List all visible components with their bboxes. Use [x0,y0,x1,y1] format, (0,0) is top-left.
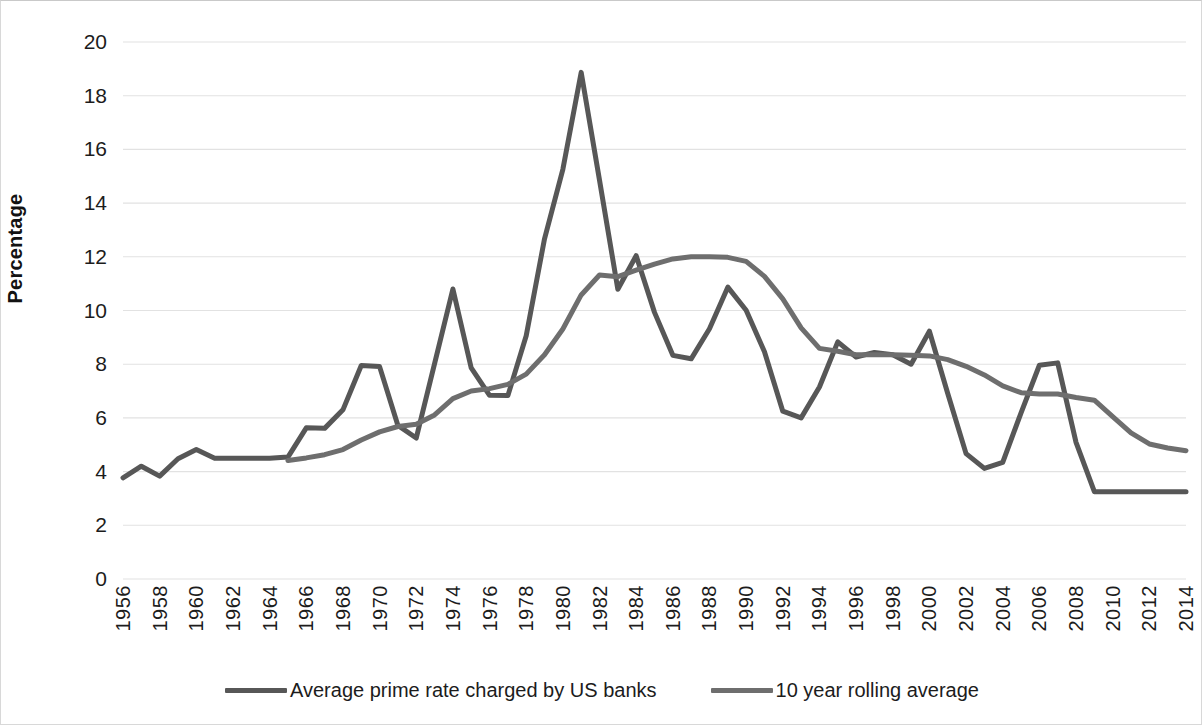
legend-item-label: Average prime rate charged by US banks [290,679,657,702]
y-axis-tick-label: 20 [61,30,107,54]
y-axis-tick-label: 2 [61,513,107,537]
y-axis-title: Percentage [4,169,27,329]
y-axis-tick-label: 12 [61,245,107,269]
x-axis-tick-label: 1990 [735,585,758,632]
x-axis-tick-label: 1994 [808,585,831,632]
y-axis-tick-label: 4 [61,460,107,484]
y-axis-tick-label: 8 [61,352,107,376]
y-axis-tick-labels: 02468101214161820 [61,42,107,579]
y-axis-tick-label: 18 [61,84,107,108]
series-line-prime-rate [123,72,1186,491]
x-axis-tick-label: 1968 [332,585,355,632]
x-axis-tick-label: 2006 [1028,585,1051,632]
x-axis-tick-label: 2012 [1138,585,1161,632]
line-chart-figure: Percentage 02468101214161820 19561958196… [0,0,1202,725]
series-line-rolling-average [288,257,1186,461]
x-axis-tick-label: 1996 [845,585,868,632]
legend-item[interactable]: 10 year rolling average [711,679,979,702]
x-axis-tick-label: 1982 [589,585,612,632]
x-axis-tick-label: 2002 [955,585,978,632]
x-axis-tick-label: 1972 [405,585,428,632]
x-axis-tick-label: 1962 [222,585,245,632]
y-axis-tick-label: 6 [61,406,107,430]
y-axis-tick-label: 16 [61,137,107,161]
x-axis-tick-label: 1976 [479,585,502,632]
y-axis-tick-label: 0 [61,567,107,591]
legend-line-swatch-icon [225,688,287,693]
chart-legend: Average prime rate charged by US banks10… [1,679,1202,702]
x-axis-tick-label: 1988 [698,585,721,632]
x-axis-tick-label: 1986 [662,585,685,632]
x-axis-tick-label: 1956 [112,585,135,632]
series-lines [123,42,1186,579]
x-axis-tick-label: 1970 [369,585,392,632]
x-axis-tick-label: 2000 [918,585,941,632]
x-axis-tick-label: 2008 [1065,585,1088,632]
x-axis-tick-label: 1992 [772,585,795,632]
x-axis-tick-label: 1984 [625,585,648,632]
x-axis-tick-label: 1974 [442,585,465,632]
x-axis-tick-label: 2004 [992,585,1015,632]
plot-area [123,42,1186,579]
x-axis-tick-label: 1998 [882,585,905,632]
legend-item[interactable]: Average prime rate charged by US banks [225,679,657,702]
x-axis-tick-label: 1966 [295,585,318,632]
x-axis-tick-labels: 1956195819601962196419661968197019721974… [123,585,1186,665]
y-axis-tick-label: 10 [61,299,107,323]
x-axis-tick-label: 2014 [1175,585,1198,632]
x-axis-tick-label: 1958 [149,585,172,632]
x-axis-tick-label: 1960 [185,585,208,632]
legend-line-swatch-icon [711,688,773,693]
x-axis-tick-label: 2010 [1102,585,1125,632]
x-axis-tick-label: 1978 [515,585,538,632]
x-axis-tick-label: 1980 [552,585,575,632]
x-axis-tick-label: 1964 [259,585,282,632]
legend-item-label: 10 year rolling average [776,679,979,702]
y-axis-tick-label: 14 [61,191,107,215]
